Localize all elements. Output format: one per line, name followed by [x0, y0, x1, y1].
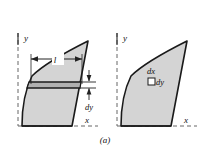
left-panel: l dy y x	[18, 33, 98, 126]
arrow-down-icon	[87, 75, 92, 82]
right-panel: dx dy y x	[117, 33, 197, 126]
arrow-up-icon	[87, 88, 92, 95]
right-x-axis-label: x	[183, 115, 188, 125]
dy-label: dy	[156, 77, 164, 87]
horizontal-strip-element	[27, 82, 81, 88]
differential-element-square	[148, 78, 155, 85]
dx-label: dx	[147, 66, 155, 76]
figure-canvas: l dy y x	[0, 0, 210, 148]
right-y-axis-label: y	[122, 33, 127, 43]
left-y-axis-label: y	[23, 33, 28, 43]
figure-container: l dy y x	[0, 0, 210, 148]
thickness-label: dy	[85, 102, 93, 112]
figure-caption: (a)	[100, 135, 111, 145]
arrow-left-icon	[31, 56, 38, 62]
left-x-axis-label: x	[84, 115, 89, 125]
